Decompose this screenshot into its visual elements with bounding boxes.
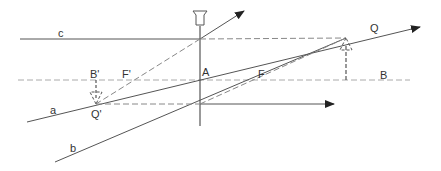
label-b: b [70,142,76,154]
ray-diagram-canvas: c a b A B' F' F Q B Q' [0,0,441,171]
ray-c-dashed-to-Q [200,38,346,39]
ray-diagram: c a b A B' F' F Q B Q' [0,0,441,171]
diverging-lens-icon [193,11,207,25]
label-F-prime: F' [122,68,131,80]
label-A: A [202,66,210,78]
ray-a [27,27,420,122]
label-c: c [58,27,64,39]
label-Q: Q [370,22,379,34]
ray-c-extension [96,39,200,104]
label-B: B [380,69,387,81]
label-B-prime: B' [90,68,99,80]
ray-c-refracted [200,11,244,39]
label-a: a [50,104,57,116]
ray-F-dashed [200,38,346,104]
label-F: F [258,68,265,80]
label-Q-prime: Q' [91,108,102,120]
